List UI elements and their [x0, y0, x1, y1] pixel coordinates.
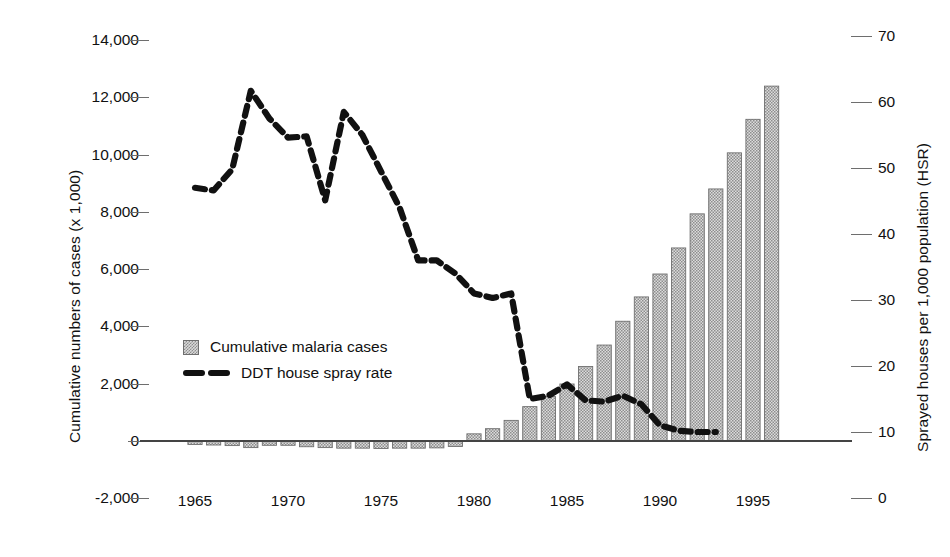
x-axis-tick-label: 1985	[550, 492, 584, 510]
x-axis-tick-label: 1965	[178, 492, 212, 510]
bar	[579, 367, 593, 441]
y-axis-left-tick-label: 10,000	[53, 146, 139, 164]
bar	[300, 441, 314, 447]
y-axis-left-tick-label: 6,000	[53, 260, 139, 278]
bar	[244, 441, 258, 448]
plot-area	[0, 0, 950, 557]
bar	[597, 345, 611, 441]
bar	[225, 441, 239, 446]
y-axis-right-tick-label: 10	[878, 423, 938, 441]
y-axis-right-tick-label: 40	[878, 225, 938, 243]
y-axis-right-tick-label: 60	[878, 93, 938, 111]
bar	[523, 407, 537, 441]
y-axis-left-tick-mark	[128, 212, 149, 213]
bar	[727, 153, 741, 441]
bar	[467, 434, 481, 441]
x-axis-tick-label: 1980	[457, 492, 491, 510]
bar	[411, 441, 425, 448]
y-axis-right-tick-mark	[851, 102, 872, 103]
y-axis-left-tick-mark	[128, 269, 149, 270]
y-axis-left-tick-label: 2,000	[53, 375, 139, 393]
x-axis-tick-label: 1975	[364, 492, 398, 510]
y-axis-left-tick-mark	[128, 384, 149, 385]
chart-legend: Cumulative malaria cases DDT house spray…	[183, 334, 392, 386]
y-axis-left-tick-label: 0	[53, 432, 139, 450]
bar	[318, 441, 332, 448]
y-axis-right-tick-label: 20	[878, 357, 938, 375]
x-axis-tick-label: 1970	[271, 492, 305, 510]
bar	[262, 441, 276, 445]
bar-series	[188, 86, 779, 448]
bar	[188, 441, 202, 444]
bar	[207, 441, 221, 445]
y-axis-right-tick-mark	[851, 498, 872, 499]
malaria-ddt-chart: Cumulative numbers of cases (x 1,000) Sp…	[0, 0, 950, 557]
y-axis-left-tick-label: 8,000	[53, 203, 139, 221]
x-axis-tick-label: 1990	[643, 492, 677, 510]
bar	[393, 441, 407, 448]
legend-label-ddt-spray-rate: DDT house spray rate	[241, 364, 392, 382]
y-axis-right-tick-mark	[851, 300, 872, 301]
bar	[709, 189, 723, 441]
y-axis-right-tick-mark	[851, 36, 872, 37]
bar	[504, 420, 518, 441]
y-axis-left-tick-mark-zero	[128, 441, 142, 442]
y-axis-right-tick-label: 0	[878, 489, 938, 507]
y-axis-left-tick-mark	[128, 97, 149, 98]
bar	[281, 441, 295, 445]
y-axis-right-tick-mark	[851, 168, 872, 169]
y-axis-left-tick-mark	[128, 326, 149, 327]
dashed-line-swatch-icon-2	[208, 370, 230, 376]
y-axis-right-tick-mark	[851, 432, 872, 433]
bar	[672, 248, 686, 441]
legend-label-cumulative-cases: Cumulative malaria cases	[210, 338, 387, 356]
bar	[430, 441, 444, 448]
y-axis-right-tick-mark	[851, 234, 872, 235]
bar	[634, 297, 648, 441]
bar	[541, 397, 555, 441]
bar	[374, 441, 388, 448]
bar	[355, 441, 369, 448]
bar	[765, 86, 779, 441]
y-axis-left-tick-label: 12,000	[53, 88, 139, 106]
legend-item-cumulative-cases: Cumulative malaria cases	[183, 334, 392, 360]
x-axis-tick-label: 1995	[736, 492, 770, 510]
y-axis-right-tick-mark	[851, 366, 872, 367]
y-axis-right-tick-label: 70	[878, 27, 938, 45]
y-axis-left-tick-label: 4,000	[53, 317, 139, 335]
bar	[448, 441, 462, 446]
y-axis-left-tick-mark	[128, 498, 149, 499]
y-axis-left-tick-label: 14,000	[53, 31, 139, 49]
bar	[653, 274, 667, 441]
y-axis-left-tick-mark	[128, 40, 149, 41]
legend-item-ddt-spray-rate: DDT house spray rate	[183, 360, 392, 386]
y-axis-right-tick-label: 50	[878, 159, 938, 177]
y-axis-right-tick-label: 30	[878, 291, 938, 309]
bar	[486, 429, 500, 441]
bar	[560, 384, 574, 441]
bar-swatch-icon	[183, 340, 199, 355]
bar	[746, 119, 760, 441]
bar	[616, 321, 630, 441]
bar	[337, 441, 351, 448]
y-axis-left-tick-mark	[128, 155, 149, 156]
dashed-line-swatch-icon	[183, 370, 205, 376]
bar	[690, 214, 704, 441]
y-axis-left-tick-label: -2,000	[53, 489, 139, 507]
